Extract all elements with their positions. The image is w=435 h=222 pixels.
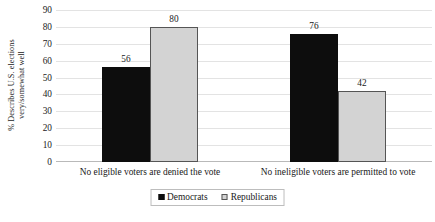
bar-value-label: 80	[169, 15, 178, 24]
bar-republicans-1[interactable]	[338, 91, 386, 162]
y-axis-tick-label: 10	[30, 141, 52, 150]
y-axis-tick-label: 60	[30, 56, 52, 65]
y-axis-tick-label: 70	[30, 39, 52, 48]
bar-democrats-0[interactable]	[102, 67, 150, 162]
black-square-icon	[158, 194, 164, 200]
bar-group: 5680	[102, 10, 198, 162]
x-axis-category-label: No ineligible voters are permitted to vo…	[261, 166, 416, 179]
y-axis-tick-label: 30	[30, 107, 52, 116]
x-axis-category-label: No eligible voters are denied the vote	[80, 166, 221, 179]
y-axis-title-line-2: very/somewhat well	[17, 39, 27, 131]
bar-value-label: 42	[357, 79, 366, 88]
bar-value-label: 76	[309, 22, 318, 31]
x-axis-category-labels: No eligible voters are denied the voteNo…	[56, 166, 432, 182]
plot-area: 56807642	[56, 10, 432, 162]
y-axis-tick-labels: 9080706050403020100	[30, 10, 52, 162]
legend-item-label: Republicans	[231, 192, 277, 202]
bars-layer: 56807642	[56, 10, 432, 162]
y-axis-title: % Describes U.S. elections very/somewhat…	[0, 0, 34, 170]
y-axis-tick-label: 90	[30, 6, 52, 15]
y-axis-tick-label: 20	[30, 124, 52, 133]
y-axis-tick-label: 50	[30, 73, 52, 82]
bar-republicans-0[interactable]	[150, 27, 198, 162]
legend-item-label: Democrats	[167, 192, 208, 202]
legend-item-democrats[interactable]: Democrats	[158, 192, 208, 202]
bar-group: 7642	[290, 10, 386, 162]
y-axis-tick-label: 40	[30, 90, 52, 99]
bar-democrats-1[interactable]	[290, 34, 338, 162]
y-axis-tick-label: 80	[30, 22, 52, 31]
y-axis-title-line-1: % Describes U.S. elections	[7, 39, 17, 131]
legend-item-republicans[interactable]: Republicans	[222, 192, 277, 202]
y-axis-tick-label: 0	[30, 158, 52, 167]
bar-value-label: 56	[121, 55, 130, 64]
chart-legend: DemocratsRepublicans	[150, 189, 285, 206]
bar-chart-figure: % Describes U.S. elections very/somewhat…	[0, 0, 435, 222]
gray-square-icon	[222, 194, 228, 200]
